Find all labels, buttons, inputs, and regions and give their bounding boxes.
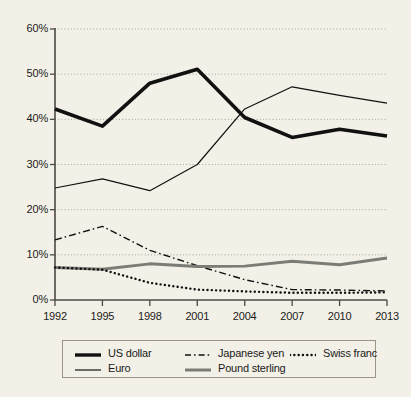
x-tick-label: 2013 — [365, 310, 409, 322]
x-tick-label: 1998 — [128, 310, 172, 322]
legend-label: Japanese yen — [218, 347, 284, 359]
y-tick-label: 20% — [14, 203, 48, 215]
y-tick-label: 10% — [14, 248, 48, 260]
legend-label: Euro — [108, 362, 130, 374]
axis-lines — [55, 28, 387, 300]
series-lines — [55, 69, 387, 293]
chart-plot-area — [0, 0, 411, 397]
x-tick-label: 2010 — [318, 310, 362, 322]
chart-figure: 60%50%40%30%20%10%0% 1992199519982001200… — [0, 0, 411, 397]
x-tick-label: 2001 — [175, 310, 219, 322]
series-line-us-dollar — [55, 69, 387, 137]
series-line-japanese-yen — [55, 226, 387, 291]
x-tick-label: 1995 — [80, 310, 124, 322]
legend-item[interactable]: Pound sterling — [185, 361, 286, 375]
series-line-pound-sterling — [55, 258, 387, 269]
y-tick-label: 40% — [14, 112, 48, 124]
chart-legend: US dollarJapanese yenSwiss francEuroPoun… — [62, 340, 376, 378]
y-tick-label: 0% — [14, 293, 48, 305]
legend-item[interactable]: Euro — [75, 361, 130, 375]
legend-item[interactable]: Japanese yen — [185, 346, 284, 360]
y-tick-label: 60% — [14, 22, 48, 34]
gridlines — [55, 29, 387, 255]
series-line-swiss-franc — [55, 267, 387, 292]
legend-label: Pound sterling — [218, 362, 286, 374]
series-line-euro — [55, 87, 387, 191]
x-tick-label: 1992 — [33, 310, 77, 322]
legend-swatch-icon — [290, 347, 316, 359]
y-tick-label: 30% — [14, 158, 48, 170]
legend-swatch-icon — [75, 362, 101, 374]
legend-label: Swiss franc — [323, 347, 377, 359]
x-tick-label: 2007 — [270, 310, 314, 322]
legend-swatch-icon — [75, 347, 101, 359]
legend-swatch-icon — [185, 347, 211, 359]
legend-swatch-icon — [185, 362, 211, 374]
legend-item[interactable]: US dollar — [75, 346, 151, 360]
legend-item[interactable]: Swiss franc — [290, 346, 377, 360]
legend-label: US dollar — [108, 347, 151, 359]
y-tick-label: 50% — [14, 67, 48, 79]
x-tick-label: 2004 — [223, 310, 267, 322]
